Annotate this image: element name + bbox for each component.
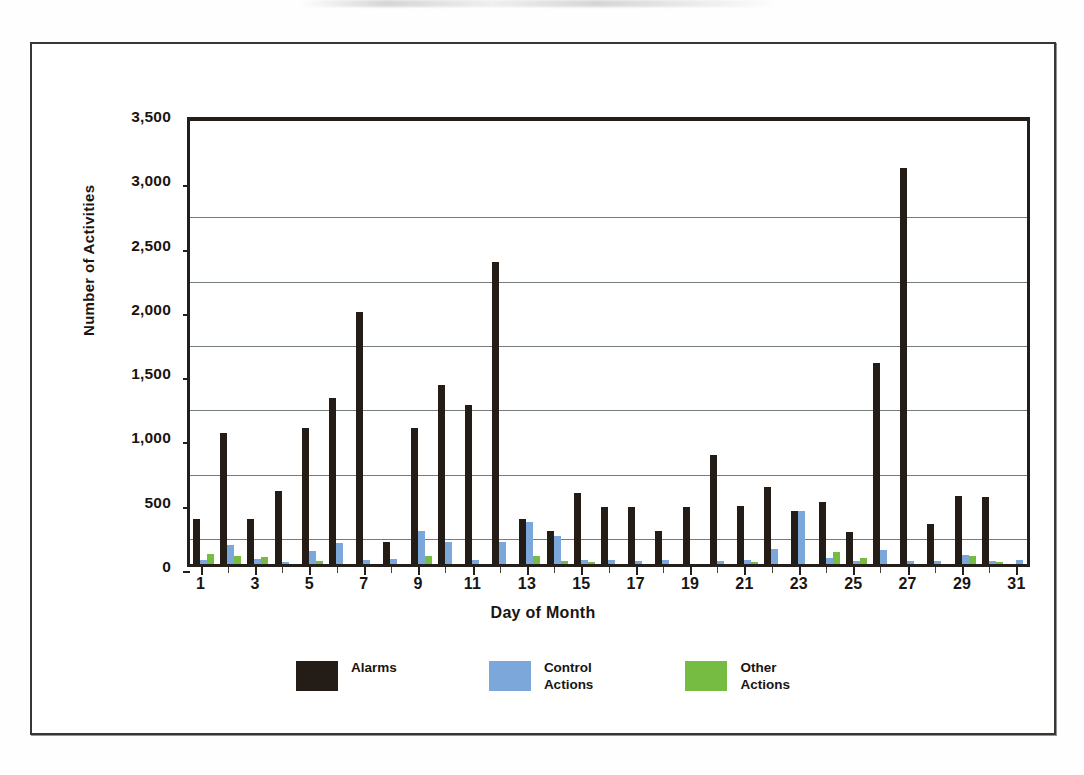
legend: AlarmsControl ActionsOther Actions — [32, 659, 1054, 694]
x-axis-label: 5 — [305, 576, 314, 592]
day-group — [247, 121, 268, 564]
bars-layer — [190, 121, 1027, 564]
y-axis-tick — [183, 250, 190, 252]
bar-control — [608, 560, 615, 564]
bar-control — [826, 558, 833, 564]
bar-alarms — [574, 493, 581, 564]
day-group — [764, 121, 785, 564]
bar-alarms — [683, 507, 690, 564]
day-group — [737, 121, 758, 564]
x-axis-label: 27 — [899, 576, 917, 592]
day-group — [900, 121, 921, 564]
x-axis-tick — [418, 567, 420, 575]
plot-area — [187, 117, 1030, 567]
x-axis-tick — [853, 567, 855, 575]
bar-alarms — [465, 405, 472, 564]
x-axis-tick — [772, 567, 773, 573]
bar-other — [996, 562, 1003, 564]
day-group — [465, 121, 486, 564]
day-group — [492, 121, 513, 564]
bar-control — [472, 560, 479, 564]
day-group — [628, 121, 649, 564]
day-group — [411, 121, 432, 564]
bar-control — [989, 561, 996, 564]
y-axis-tick — [183, 185, 190, 187]
x-axis-tick — [1016, 567, 1018, 575]
bar-alarms — [519, 519, 526, 564]
bar-control — [662, 560, 669, 564]
y-axis-label: 3,500 — [79, 109, 171, 125]
bar-other — [833, 552, 840, 564]
bar-control — [853, 561, 860, 564]
figure-frame: Number of Activities 3,5003,0002,5002,00… — [30, 42, 1056, 735]
day-group — [438, 121, 459, 564]
day-group — [220, 121, 241, 564]
bar-control — [798, 511, 805, 564]
bar-alarms — [628, 507, 635, 564]
bar-alarms — [220, 433, 227, 564]
day-group — [574, 121, 595, 564]
bar-control — [390, 559, 397, 564]
x-axis-label: 21 — [735, 576, 753, 592]
bar-other — [860, 558, 867, 564]
y-axis-label: 1,000 — [79, 431, 171, 447]
day-group — [356, 121, 377, 564]
x-axis-tick — [554, 567, 555, 573]
bar-alarms — [438, 385, 445, 564]
bar-control — [227, 545, 234, 564]
bar-alarms — [411, 428, 418, 564]
bar-alarms — [302, 428, 309, 564]
bar-control — [445, 542, 452, 564]
x-axis-label: 3 — [250, 576, 259, 592]
y-axis-label: 1,500 — [79, 366, 171, 382]
bar-control — [499, 542, 506, 564]
x-axis-tick — [473, 567, 475, 575]
day-group — [329, 121, 350, 564]
bar-control — [771, 549, 778, 564]
x-axis-tick — [581, 567, 583, 575]
x-axis-tick — [500, 567, 501, 573]
bar-other — [588, 562, 595, 564]
x-axis-tick — [445, 567, 446, 573]
bar-other — [561, 561, 568, 564]
bar-alarms — [791, 511, 798, 564]
bar-alarms — [927, 524, 934, 564]
x-axis-tick — [690, 567, 692, 575]
bar-alarms — [356, 312, 363, 564]
x-axis-tick — [799, 567, 801, 575]
bar-control — [744, 560, 751, 564]
bar-alarms — [383, 542, 390, 564]
day-group — [1009, 121, 1030, 564]
y-axis-tick — [183, 378, 190, 380]
bar-alarms — [900, 168, 907, 564]
x-axis-tick — [989, 567, 990, 573]
day-group — [547, 121, 568, 564]
x-axis-label: 9 — [414, 576, 423, 592]
legend-swatch — [489, 661, 531, 691]
bar-alarms — [193, 519, 200, 564]
x-axis-label: 7 — [359, 576, 368, 592]
bar-control — [1016, 560, 1023, 564]
bar-alarms — [547, 531, 554, 564]
x-axis-tick — [717, 567, 718, 573]
x-axis: 135791113151719212325272931 — [187, 567, 1030, 607]
day-group — [791, 121, 812, 564]
x-axis-tick — [364, 567, 366, 575]
bar-alarms — [737, 506, 744, 564]
bar-alarms — [710, 455, 717, 564]
bar-other — [261, 557, 268, 564]
day-group — [383, 121, 404, 564]
y-axis-label: 0 — [79, 559, 171, 575]
x-axis-label: 13 — [518, 576, 536, 592]
x-axis-tick — [391, 567, 392, 573]
day-group — [601, 121, 622, 564]
bar-alarms — [955, 496, 962, 564]
x-axis-tick — [255, 567, 257, 575]
x-axis-tick — [744, 567, 746, 575]
bar-alarms — [247, 519, 254, 564]
bar-alarms — [982, 497, 989, 564]
bar-control — [363, 560, 370, 564]
x-axis-tick — [309, 567, 311, 575]
x-axis-tick — [880, 567, 881, 573]
y-axis-tick — [183, 442, 190, 444]
